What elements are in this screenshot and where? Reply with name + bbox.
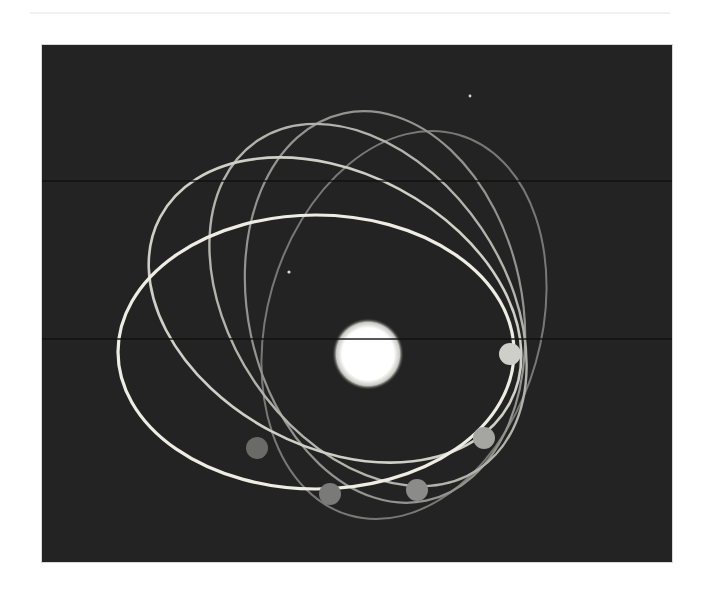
star-icon [332, 318, 404, 390]
scan-line-artifact [42, 180, 672, 182]
scan-artifact-strip [30, 12, 670, 14]
planet-4-icon [319, 483, 341, 505]
scan-line-artifact [42, 338, 672, 340]
dust-speck [287, 270, 290, 273]
planet-2-icon [473, 427, 495, 449]
dust-speck [469, 95, 472, 98]
planet-3-icon [406, 479, 428, 501]
orbit-diagram-panel [42, 45, 672, 562]
orbit-diagram [42, 45, 672, 562]
planet-5-icon [246, 437, 268, 459]
orbit-3 [144, 64, 593, 546]
star-layer [332, 318, 404, 390]
planet-1-icon [499, 343, 521, 365]
orbits-layer [96, 64, 592, 553]
